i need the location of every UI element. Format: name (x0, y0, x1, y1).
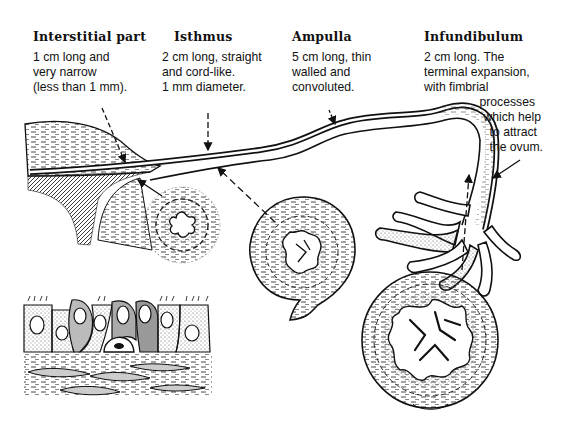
description-line: to attract (471, 125, 549, 140)
uterine-tube-diagram: Interstitial part 1 cm long and very nar… (0, 0, 569, 433)
description-infundibulum: 2 cm long. The terminal expansion, with … (424, 50, 530, 95)
epithelium-detail (24, 296, 212, 400)
heading-interstitial-part: Interstitial part (33, 29, 146, 44)
description-line: terminal expansion, (424, 65, 530, 80)
ampulla-cross-section (250, 197, 355, 320)
description-line: and cord-like. (162, 65, 262, 80)
description-line: very narrow (33, 65, 127, 80)
heading-infundibulum: Infundibulum (424, 29, 523, 44)
description-line: which help (471, 110, 549, 125)
description-line: 2 cm long. The (424, 50, 530, 65)
description-line: convoluted. (292, 80, 371, 95)
description-isthmus: 2 cm long, straight and cord-like. 1 mm … (162, 50, 262, 95)
description-interstitial-part: 1 cm long and very narrow (less than 1 m… (33, 50, 127, 95)
heading-isthmus: Isthmus (174, 29, 233, 44)
description-line: 2 cm long, straight (162, 50, 262, 65)
isthmus-cross-section (144, 187, 220, 263)
description-line: processes (471, 95, 549, 110)
description-line: 5 cm long, thin (292, 50, 371, 65)
description-ampulla: 5 cm long, thin walled and convoluted. (292, 50, 371, 95)
description-line: 1 cm long and (33, 50, 127, 65)
description-line: walled and (292, 65, 371, 80)
description-line: 1 mm diameter. (162, 80, 262, 95)
description-line: (less than 1 mm). (33, 80, 127, 95)
description-line: the ovum. (471, 140, 549, 155)
description-infundibulum-continued: processes which help to attract the ovum… (471, 95, 549, 155)
infundibulum-cross-section (362, 272, 498, 409)
description-line: with fimbrial (424, 80, 530, 95)
heading-ampulla: Ampulla (292, 29, 352, 44)
uterine-wall (25, 122, 160, 250)
